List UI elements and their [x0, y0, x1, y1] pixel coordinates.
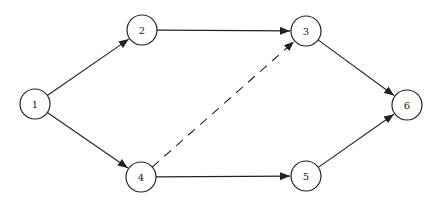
edge-2-3: [157, 30, 290, 31]
node-1: 1: [20, 89, 50, 119]
node-6: 6: [392, 90, 422, 120]
node-label: 6: [404, 100, 410, 111]
node-label: 3: [303, 26, 309, 37]
nodes: 123456: [20, 15, 422, 192]
edge-1-2: [47, 39, 129, 95]
edge-5-6: [318, 114, 394, 167]
edge-3-6: [318, 40, 394, 96]
edges: [47, 30, 394, 177]
node-label: 1: [32, 99, 38, 110]
edge-4-3: [152, 42, 294, 167]
edge-4-5: [156, 176, 290, 177]
node-5: 5: [291, 161, 321, 191]
node-label: 5: [303, 171, 309, 182]
node-2: 2: [127, 15, 157, 45]
node-4: 4: [126, 162, 156, 192]
network-diagram: 123456: [0, 0, 442, 208]
node-label: 2: [139, 25, 145, 36]
node-label: 4: [138, 172, 144, 183]
node-3: 3: [291, 16, 321, 46]
edge-1-4: [47, 113, 127, 168]
